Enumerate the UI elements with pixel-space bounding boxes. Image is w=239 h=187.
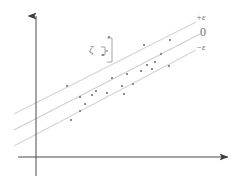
data-point <box>70 119 72 121</box>
data-point <box>146 64 148 66</box>
lower-epsilon-line <box>14 50 196 146</box>
data-point <box>111 77 113 79</box>
data-point <box>79 96 81 98</box>
data-point <box>79 110 81 112</box>
data-point <box>102 54 104 56</box>
tube-lines-group <box>14 22 200 146</box>
data-point <box>154 61 156 63</box>
label-minus-epsilon: −ε <box>196 43 206 52</box>
data-point <box>91 94 93 96</box>
data-point <box>106 92 108 94</box>
data-point <box>168 65 170 67</box>
data-point <box>123 93 125 95</box>
label-zero: 0 <box>200 26 206 38</box>
figure-container: +ε 0 −ε ζ <box>0 0 239 187</box>
label-plus-epsilon: +ε <box>196 13 206 22</box>
regression-center-line <box>14 34 200 130</box>
data-point <box>169 39 171 41</box>
data-points-group <box>66 36 171 121</box>
data-point <box>140 70 142 72</box>
data-point <box>121 85 123 87</box>
data-point <box>160 53 162 55</box>
data-point <box>95 90 97 92</box>
data-point <box>132 83 134 85</box>
data-point <box>126 73 128 75</box>
upper-epsilon-line <box>14 22 196 114</box>
zeta-brace-icon <box>101 38 112 62</box>
data-point <box>151 68 153 70</box>
data-point <box>143 44 145 46</box>
data-point <box>108 36 110 38</box>
label-zeta: ζ <box>89 44 93 55</box>
data-point <box>66 85 68 87</box>
data-point <box>84 103 86 105</box>
